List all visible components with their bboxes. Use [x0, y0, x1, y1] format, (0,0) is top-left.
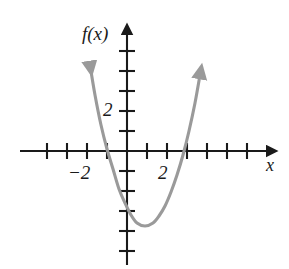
y-tick-label-2: 2	[103, 100, 113, 119]
x-tick-label-neg2: −2	[68, 163, 90, 182]
y-axis-group	[119, 33, 135, 265]
parabola-curve	[90, 65, 200, 226]
function-curve-group	[90, 65, 200, 226]
graph-figure: f(x) x 2 −2 2	[0, 0, 289, 269]
x-tick-label-2: 2	[158, 163, 168, 182]
x-axis-label: x	[266, 156, 274, 174]
x-axis-group	[20, 143, 268, 159]
coordinate-plane-svg	[0, 0, 289, 269]
y-axis-label: f(x)	[82, 24, 108, 43]
